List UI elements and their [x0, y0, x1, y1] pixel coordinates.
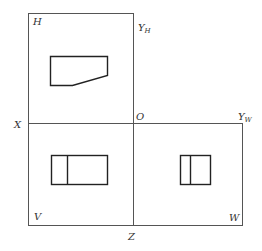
front-view-shape: [52, 156, 108, 185]
label-z-axis: Z: [127, 231, 136, 242]
label-h-plane: H: [32, 16, 42, 27]
top-view-shape: [51, 57, 108, 86]
label-y-w: YW: [238, 111, 253, 124]
label-w-plane: W: [229, 212, 240, 223]
label-x-axis: X: [13, 119, 22, 130]
w-plane-frame: [134, 124, 243, 226]
label-origin: O: [136, 111, 144, 122]
v-plane-frame: [29, 124, 134, 226]
projection-diagram: H V W X Z O YH YW: [0, 0, 262, 251]
h-plane-frame: [29, 14, 134, 124]
label-v-plane: V: [34, 211, 43, 222]
label-y-h: YH: [138, 22, 152, 35]
side-view-shape: [181, 156, 211, 185]
